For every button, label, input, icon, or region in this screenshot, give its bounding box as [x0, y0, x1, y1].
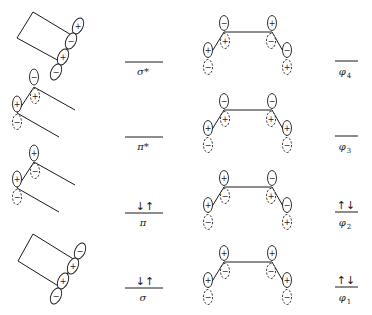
sigma-localized-orbital: − + + −	[18, 234, 88, 306]
phase-sign: +	[14, 100, 21, 109]
ring-bond	[34, 87, 75, 110]
phase-sign: −	[77, 247, 84, 256]
phase-sign: −	[284, 293, 291, 302]
phi3-orbital-diagram: + − − + − + + −	[204, 94, 292, 153]
phase-sign: +	[32, 92, 39, 101]
phase-sign: +	[205, 124, 212, 133]
label-pi-star: π*	[136, 141, 149, 152]
phase-sign: −	[205, 141, 212, 150]
phase-sign: +	[268, 192, 275, 201]
phase-sign: +	[269, 249, 276, 258]
electron-pair-arrows: ↓↑	[136, 275, 154, 288]
phase-sign: +	[205, 276, 212, 285]
delocalized-energy-levels: φ4 φ3 ↑↓ φ2 ↑↓ φ1	[335, 61, 358, 306]
pi-star-localized-orbital: − + + −	[13, 69, 76, 137]
phase-sign: −	[68, 37, 75, 46]
phase-sign: +	[222, 115, 229, 124]
phase-sign: −	[205, 63, 212, 72]
phase-sign: −	[14, 193, 21, 202]
phase-sign: −	[14, 118, 21, 127]
phase-sign: +	[269, 19, 276, 28]
phase-sign: −	[222, 267, 229, 276]
phase-sign: +	[205, 201, 212, 210]
label-sigma-star: σ*	[137, 66, 149, 77]
phase-sign: −	[53, 68, 60, 77]
phase-sign: −	[268, 267, 275, 276]
phase-sign: −	[222, 192, 229, 201]
phase-sign: +	[222, 37, 229, 46]
phase-sign: −	[269, 97, 276, 106]
localized-energy-levels: σ* π* ↓↑ π ↓↑ σ	[125, 62, 163, 303]
phase-sign: −	[284, 141, 291, 150]
phase-sign: +	[284, 276, 291, 285]
phi4-orbital-diagram: + − − + + − − +	[204, 16, 292, 75]
phase-sign: −	[205, 218, 212, 227]
phase-sign: −	[269, 174, 276, 183]
sigma-star-localized-orbital: + − + −	[17, 12, 86, 82]
phase-sign: +	[14, 175, 21, 184]
label-phi3: φ3	[339, 141, 351, 155]
phase-sign: +	[221, 249, 228, 258]
electron-pair-arrows: ↑↓	[337, 274, 355, 287]
phase-sign: +	[31, 149, 38, 158]
electron-pair-arrows: ↑↓	[337, 199, 355, 212]
phase-sign: −	[205, 293, 212, 302]
label-pi: π	[139, 217, 147, 228]
label-phi1: φ1	[339, 292, 351, 306]
phase-sign: −	[268, 37, 275, 46]
pi-localized-orbital: + − + −	[13, 145, 76, 212]
phase-sign: +	[268, 115, 275, 124]
phase-sign: +	[205, 46, 212, 55]
electron-pair-arrows: ↓↑	[136, 200, 154, 213]
ring-bond	[17, 113, 59, 137]
phi2-orbital-diagram: + − + − − + − +	[204, 171, 292, 230]
phase-sign: +	[70, 262, 77, 271]
label-sigma: σ	[140, 292, 148, 303]
phase-sign: −	[31, 73, 38, 82]
label-phi2: φ2	[339, 217, 351, 231]
orbital-correlation-diagram: + − + − − + + − + − + −	[0, 0, 372, 315]
phase-sign: −	[53, 292, 60, 301]
phase-sign: +	[60, 277, 67, 286]
phase-sign: −	[284, 46, 291, 55]
phase-sign: +	[284, 124, 291, 133]
label-phi4: φ4	[339, 66, 352, 80]
phase-sign: +	[284, 63, 291, 72]
phi1-orbital-diagram: + − + − + − + −	[204, 246, 292, 305]
phase-sign: −	[221, 97, 228, 106]
ring-bond	[34, 162, 75, 185]
phase-sign: +	[60, 53, 67, 62]
phase-sign: +	[75, 22, 82, 31]
phase-sign: −	[221, 19, 228, 28]
phase-sign: −	[284, 201, 291, 210]
phase-sign: +	[221, 174, 228, 183]
phase-sign: −	[32, 167, 39, 176]
phase-sign: +	[284, 218, 291, 227]
ring-bond	[17, 188, 59, 212]
